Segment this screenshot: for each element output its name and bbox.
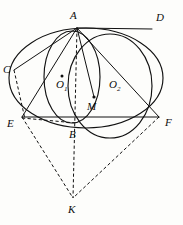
point-M-dot: [92, 95, 95, 98]
label-D: D: [155, 11, 164, 23]
figure-background: [0, 0, 183, 225]
label-K: K: [67, 203, 76, 215]
label-O1: O: [56, 78, 64, 90]
label-C: C: [3, 63, 11, 75]
label-A: A: [69, 9, 77, 21]
label-B: B: [69, 128, 76, 140]
geometry-figure: A D C O 1 O 2 M E B F K: [0, 0, 183, 225]
label-E: E: [6, 117, 14, 129]
label-O2: O: [109, 78, 117, 90]
label-F: F: [164, 116, 172, 128]
label-M: M: [86, 100, 97, 112]
label-O2-subscript: 2: [117, 85, 121, 93]
label-O1-subscript: 1: [64, 85, 68, 93]
